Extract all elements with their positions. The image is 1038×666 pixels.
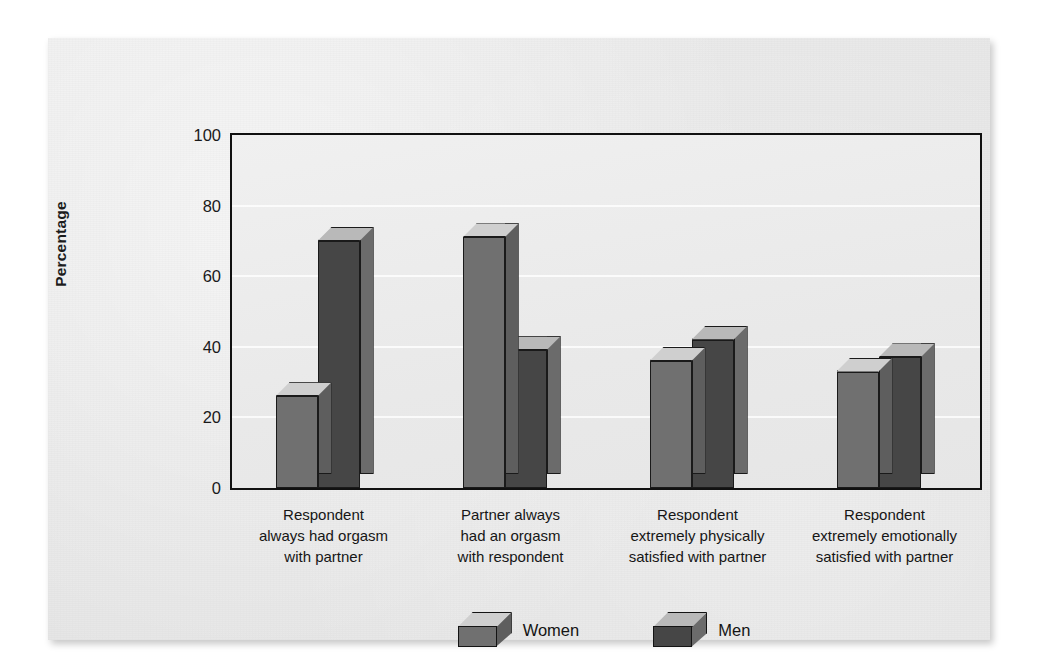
bar-front-face xyxy=(463,237,505,488)
bar-side-face xyxy=(318,382,332,474)
y-axis-title: Percentage xyxy=(52,154,70,334)
category-label-line: with respondent xyxy=(417,546,604,567)
legend-swatch-face xyxy=(653,626,692,647)
figure-card: Percentage 020406080100 Respondentalways… xyxy=(48,38,990,640)
category-label-4: Respondentextremely emotionallysatisfied… xyxy=(791,504,978,567)
y-axis-tick-label: 80 xyxy=(203,196,221,215)
bar-women-group-1 xyxy=(276,396,318,488)
bar-side-face xyxy=(692,347,706,474)
x-axis-category-labels: Respondentalways had orgasmwith partnerP… xyxy=(230,504,978,590)
category-label-line: Respondent xyxy=(791,504,978,525)
category-label-1: Respondentalways had orgasmwith partner xyxy=(230,504,417,567)
bar-side-face xyxy=(921,343,935,474)
category-label-line: satisfied with partner xyxy=(791,546,978,567)
bar-side-face xyxy=(505,223,519,474)
bar-women-group-2 xyxy=(463,237,505,488)
plot-area: 020406080100 xyxy=(230,133,982,490)
category-label-line: extremely emotionally xyxy=(791,525,978,546)
category-label-line: Respondent xyxy=(604,504,791,525)
category-label-2: Partner alwayshad an orgasmwith responde… xyxy=(417,504,604,567)
y-axis-tick-label: 60 xyxy=(203,267,221,286)
category-label-line: Respondent xyxy=(230,504,417,525)
bar-side-face xyxy=(360,227,374,474)
bar-women-group-4 xyxy=(837,372,879,488)
y-axis-tick-label: 20 xyxy=(203,408,221,427)
legend-swatch-cube-icon xyxy=(653,612,707,648)
legend-swatch-cube-icon xyxy=(458,612,512,648)
bar-side-face xyxy=(734,326,748,474)
chart-page: Percentage 020406080100 Respondentalways… xyxy=(0,0,1038,666)
bar-front-face xyxy=(650,361,692,488)
bar-side-face xyxy=(879,358,893,474)
legend-swatch-face xyxy=(458,626,497,647)
y-axis-tick-label: 0 xyxy=(212,479,221,498)
category-label-line: satisfied with partner xyxy=(604,546,791,567)
category-label-line: with partner xyxy=(230,546,417,567)
legend-label: Women xyxy=(523,621,580,640)
y-axis-tick-label: 100 xyxy=(193,126,221,145)
y-axis-tick-label: 40 xyxy=(203,337,221,356)
bar-front-face xyxy=(276,396,318,488)
bar-women-group-3 xyxy=(650,361,692,488)
legend-item-men[interactable]: Men xyxy=(653,612,750,648)
legend-label: Men xyxy=(718,621,750,640)
category-label-line: extremely physically xyxy=(604,525,791,546)
bar-side-face xyxy=(547,336,561,474)
category-label-line: Partner always xyxy=(417,504,604,525)
category-label-3: Respondentextremely physicallysatisfied … xyxy=(604,504,791,567)
legend-item-women[interactable]: Women xyxy=(458,612,580,648)
category-label-line: always had orgasm xyxy=(230,525,417,546)
bar-front-face xyxy=(837,372,879,488)
bar-series-group xyxy=(232,135,980,488)
chart-legend: WomenMen xyxy=(230,604,978,656)
category-label-line: had an orgasm xyxy=(417,525,604,546)
